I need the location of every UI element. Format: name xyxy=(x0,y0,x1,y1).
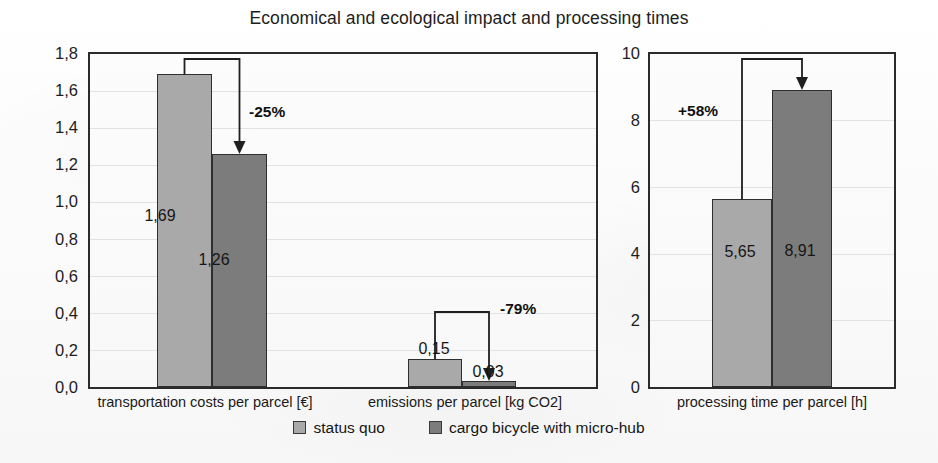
value-label-status-quo-transport-costs: 1,69 xyxy=(130,208,190,224)
left-ytick-0.8: 0,8 xyxy=(28,231,78,248)
left-ytick-0.0: 0,0 xyxy=(28,379,78,396)
legend-swatch-icon-cargo-bicycle xyxy=(429,421,442,434)
legend-label-status-quo: status quo xyxy=(313,420,385,436)
chart-page: Economical and ecological impact and pro… xyxy=(0,0,938,463)
left-ytick-1.0: 1,0 xyxy=(28,193,78,210)
right-ytick-0: 0 xyxy=(600,379,640,396)
right-ytick-2: 2 xyxy=(600,312,640,329)
category-label-processing-time: processing time per parcel [h] xyxy=(652,395,892,410)
right-ytick-6: 6 xyxy=(600,179,640,196)
left-ytick-1.6: 1,6 xyxy=(28,82,78,99)
value-label-cargo-bicycle-transport-costs: 1,26 xyxy=(184,252,244,268)
legend-label-cargo-bicycle: cargo bicycle with micro-hub xyxy=(449,420,645,436)
left-ytick-1.4: 1,4 xyxy=(28,119,78,136)
value-label-status-quo-processing-time: 5,65 xyxy=(710,244,770,260)
right-ytick-10: 10 xyxy=(600,45,640,62)
category-label-emissions: emissions per parcel [kg CO2] xyxy=(335,395,595,410)
chart-legend: status quo cargo bicycle with micro-hub xyxy=(0,420,938,436)
legend-swatch-icon-status-quo xyxy=(293,421,306,434)
value-label-status-quo-emissions: 0,15 xyxy=(404,341,464,357)
left-ytick-1.2: 1,2 xyxy=(28,156,78,173)
left-ytick-0.6: 0,6 xyxy=(28,268,78,285)
legend-item-cargo-bicycle[interactable]: cargo bicycle with micro-hub xyxy=(429,420,645,436)
chart-title: Economical and ecological impact and pro… xyxy=(0,8,938,29)
annotation-emissions: -79% xyxy=(500,301,536,317)
right-ytick-8: 8 xyxy=(600,112,640,129)
left-ytick-1.8: 1,8 xyxy=(28,45,78,62)
annotation-transport-costs: -25% xyxy=(249,104,285,120)
value-label-cargo-bicycle-emissions: 0,03 xyxy=(458,364,518,380)
left-ytick-0.4: 0,4 xyxy=(28,305,78,322)
annotation-processing-time: +58% xyxy=(678,103,718,119)
left-ytick-0.2: 0,2 xyxy=(28,342,78,359)
legend-item-status-quo[interactable]: status quo xyxy=(293,420,385,436)
category-label-transport-costs: transportation costs per parcel [€] xyxy=(75,395,335,410)
right-ytick-4: 4 xyxy=(600,245,640,262)
value-label-cargo-bicycle-processing-time: 8,91 xyxy=(770,243,830,259)
